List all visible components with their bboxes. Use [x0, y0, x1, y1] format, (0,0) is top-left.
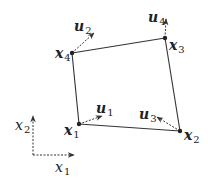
diagram-svg: [0, 0, 208, 183]
diagram-canvas: x1x2x3x4u1u2u3u4x1x2: [0, 0, 208, 183]
vector-u3-arrow: [157, 117, 180, 131]
vector-label-u2: u2: [74, 19, 92, 38]
vector-label-u4: u4: [148, 10, 166, 29]
node-label-x2: x2: [184, 128, 200, 147]
edge-x4-x1: [72, 53, 79, 124]
axis-label-x2: x2: [15, 118, 30, 137]
node-x2-dot: [178, 129, 182, 133]
node-label-x4: x4: [55, 46, 71, 65]
vector-label-u3: u3: [139, 107, 157, 126]
quadrilateral-edges: [72, 38, 180, 131]
axis-label-x1: x1: [55, 160, 70, 179]
edge-x1-x2: [79, 124, 180, 131]
node-x3-dot: [163, 36, 167, 40]
node-label-x1: x1: [64, 123, 80, 142]
node-label-x3: x3: [169, 38, 185, 57]
vector-label-u1: u1: [96, 101, 114, 120]
